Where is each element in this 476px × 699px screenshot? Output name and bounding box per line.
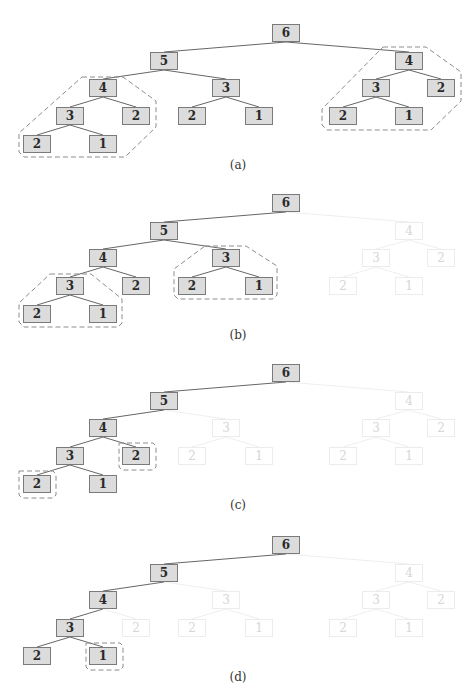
tree-node-n2a: 2 [122,107,150,125]
tree-node-n2m: 2 [178,447,206,465]
tree-edge [226,609,259,619]
tree-node-n1m: 1 [245,277,273,295]
tree-edge [37,465,70,475]
panel-caption: (d) [218,670,258,684]
tree-edge [37,637,70,647]
tree-edge [70,295,103,305]
tree-edge [164,410,226,419]
tree-node-n4r: 4 [395,564,423,582]
tree-edge [343,97,376,107]
panel-caption: (c) [218,498,258,512]
tree-edge [164,70,226,79]
tree-edge [164,582,226,591]
tree-edge [164,42,286,52]
tree-node-n2: 2 [23,135,51,153]
tree-edge [70,465,103,475]
tree-edge [164,212,286,222]
tree-node-n1: 1 [89,305,117,323]
tree-node-n2a: 2 [122,619,150,637]
tree-node-n4: 4 [89,591,117,609]
tree-edge [37,125,70,135]
tree-edge [70,267,103,277]
tree-node-n4r: 4 [395,392,423,410]
tree-edge [376,609,409,619]
tree-node-n2m: 2 [178,107,206,125]
tree-edge [226,267,259,277]
tree-node-n1r: 1 [395,107,423,125]
tree-node-n2m: 2 [178,619,206,637]
panel-b: 654433232212121(b) [0,170,476,342]
tree-edge [103,70,164,79]
tree-edge [409,582,441,591]
tree-node-n5: 5 [150,392,178,410]
panel-a: 654433232212121(a) [0,0,476,172]
tree-node-n5: 5 [150,564,178,582]
tree-edge [376,437,409,447]
tree-node-n3: 3 [56,619,84,637]
tree-node-n4: 4 [89,79,117,97]
tree-edge [192,437,226,447]
tree-node-n6: 6 [272,364,300,382]
tree-edge [164,554,286,564]
tree-node-n3m: 3 [212,419,240,437]
tree-edge [103,410,164,419]
tree-node-n5: 5 [150,222,178,240]
tree-node-n2a: 2 [122,447,150,465]
tree-node-n1: 1 [89,475,117,493]
tree-edge [192,267,226,277]
tree-node-n4r: 4 [395,52,423,70]
tree-edge [286,382,409,392]
tree-node-n2r: 2 [329,277,357,295]
tree-edge [164,382,286,392]
tree-node-n6: 6 [272,24,300,42]
tree-node-n1r: 1 [395,447,423,465]
tree-node-n1m: 1 [245,619,273,637]
tree-edge [70,609,103,619]
tree-node-n2rr: 2 [427,249,455,267]
tree-edge [192,97,226,107]
tree-node-n1r: 1 [395,619,423,637]
tree-node-n3r: 3 [362,419,390,437]
panel-d: 654433232212121(d) [0,512,476,684]
tree-node-n2r: 2 [329,447,357,465]
tree-edge [376,410,409,419]
tree-edge [70,125,103,135]
tree-node-n2m: 2 [178,277,206,295]
tree-node-n4: 4 [89,249,117,267]
tree-node-n2: 2 [23,305,51,323]
tree-edge [376,97,409,107]
tree-edge [226,97,259,107]
tree-node-n1: 1 [89,647,117,665]
tree-edge [226,437,259,447]
tree-node-n3m: 3 [212,249,240,267]
tree-node-n3m: 3 [212,79,240,97]
tree-node-n3: 3 [56,107,84,125]
tree-edge [376,70,409,79]
tree-edge [409,70,441,79]
tree-edge [103,240,164,249]
tree-node-n2r: 2 [329,619,357,637]
tree-edge [192,609,226,619]
tree-edge [164,240,226,249]
tree-edge [103,267,136,277]
tree-node-n1m: 1 [245,107,273,125]
tree-edge [376,267,409,277]
tree-node-n3: 3 [56,447,84,465]
tree-node-n3r: 3 [362,79,390,97]
tree-edge [70,437,103,447]
tree-edge [103,582,164,591]
tree-node-n5: 5 [150,52,178,70]
tree-edge [286,42,409,52]
tree-node-n1r: 1 [395,277,423,295]
tree-node-n4: 4 [89,419,117,437]
tree-edge [376,582,409,591]
tree-node-n4r: 4 [395,222,423,240]
tree-edge [37,295,70,305]
tree-node-n2: 2 [23,647,51,665]
tree-node-n3r: 3 [362,591,390,609]
tree-edge [70,97,103,107]
tree-edge [286,212,409,222]
tree-edge [103,609,136,619]
tree-node-n2r: 2 [329,107,357,125]
tree-edge [409,240,441,249]
